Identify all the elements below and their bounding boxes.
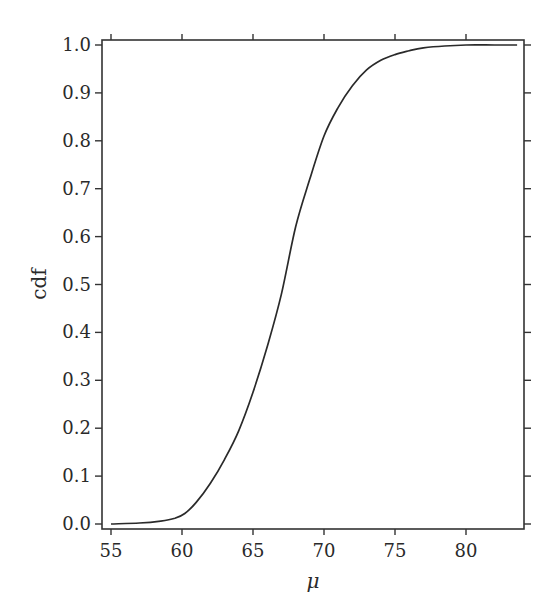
x-tick-label: 60: [171, 540, 194, 561]
cdf-curve: [111, 45, 517, 524]
y-tick-label: 0.4: [62, 321, 91, 342]
y-tick-label: 0.8: [62, 130, 91, 151]
x-tick-label: 80: [455, 540, 478, 561]
y-tick-label: 0.0: [62, 513, 91, 534]
y-axis-label: cdf: [27, 267, 51, 300]
x-tick-label: 75: [384, 540, 407, 561]
y-axis-ticks: 0.00.10.20.30.40.50.60.70.80.91.0: [62, 34, 531, 534]
y-tick-label: 0.3: [62, 369, 91, 390]
y-tick-label: 1.0: [62, 34, 91, 55]
x-tick-label: 65: [242, 540, 265, 561]
y-tick-label: 0.2: [62, 417, 91, 438]
x-tick-label: 55: [100, 540, 123, 561]
x-tick-label: 70: [313, 540, 336, 561]
y-tick-label: 0.9: [62, 82, 91, 103]
x-axis-label: μ: [307, 569, 320, 593]
plot-frame: [102, 40, 524, 529]
cdf-chart: 556065707580 0.00.10.20.30.40.50.60.70.8…: [0, 0, 555, 613]
x-axis-ticks: 556065707580: [100, 34, 478, 561]
y-tick-label: 0.1: [62, 465, 91, 486]
y-tick-label: 0.6: [62, 226, 91, 247]
y-tick-label: 0.5: [62, 274, 91, 295]
y-tick-label: 0.7: [62, 178, 91, 199]
